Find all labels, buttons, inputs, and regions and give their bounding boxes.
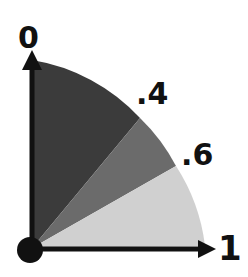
label-right: 1: [218, 228, 242, 268]
origin-dot-icon: [17, 237, 43, 263]
label-0.6: .6: [181, 137, 213, 172]
x-axis-arrowhead-icon: [198, 240, 216, 258]
quarter-circle-diagram: 0 .4 .6 1: [0, 0, 248, 277]
label-0.4: .4: [136, 76, 168, 111]
label-top: 0: [18, 20, 39, 55]
